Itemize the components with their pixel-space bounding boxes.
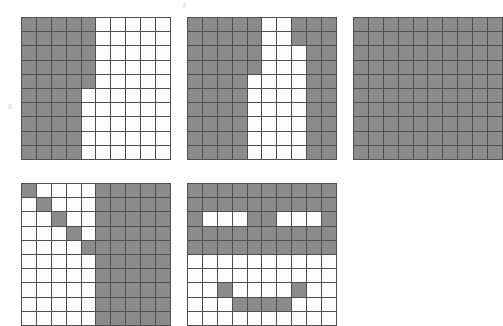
grid-cell[interactable] bbox=[398, 74, 413, 88]
grid-cell[interactable] bbox=[36, 60, 51, 74]
grid-cell[interactable] bbox=[202, 212, 217, 226]
grid-cell[interactable] bbox=[217, 117, 232, 131]
grid-cell[interactable] bbox=[247, 212, 262, 226]
grid-cell[interactable] bbox=[126, 131, 141, 145]
grid-cell[interactable] bbox=[322, 184, 337, 198]
grid-cell[interactable] bbox=[36, 145, 51, 159]
grid-cell[interactable] bbox=[81, 117, 96, 131]
grid-cell[interactable] bbox=[232, 297, 247, 311]
grid-cell[interactable] bbox=[156, 283, 171, 297]
grid-cell[interactable] bbox=[277, 212, 292, 226]
grid-cell[interactable] bbox=[51, 32, 66, 46]
grid-cell[interactable] bbox=[428, 32, 443, 46]
grid-cell[interactable] bbox=[473, 32, 488, 46]
grid-cell[interactable] bbox=[277, 131, 292, 145]
grid-cell[interactable] bbox=[307, 74, 322, 88]
grid-cell[interactable] bbox=[398, 18, 413, 32]
grid-cell[interactable] bbox=[368, 32, 383, 46]
grid-cell[interactable] bbox=[66, 32, 81, 46]
grid-cell[interactable] bbox=[428, 18, 443, 32]
grid-cell[interactable] bbox=[217, 60, 232, 74]
grid-cell[interactable] bbox=[262, 88, 277, 102]
grid-cell[interactable] bbox=[51, 117, 66, 131]
grid-cell[interactable] bbox=[81, 297, 96, 311]
grid-cell[interactable] bbox=[458, 145, 473, 159]
grid-cell[interactable] bbox=[262, 18, 277, 32]
grid-cell[interactable] bbox=[36, 32, 51, 46]
grid-cell[interactable] bbox=[66, 254, 81, 268]
grid-cell[interactable] bbox=[66, 117, 81, 131]
grid-cell[interactable] bbox=[458, 88, 473, 102]
grid-cell[interactable] bbox=[111, 74, 126, 88]
grid-cell[interactable] bbox=[322, 145, 337, 159]
grid-cell[interactable] bbox=[292, 198, 307, 212]
grid-cell[interactable] bbox=[126, 240, 141, 254]
grid-cell[interactable] bbox=[232, 254, 247, 268]
grid-cell[interactable] bbox=[111, 18, 126, 32]
grid-cell[interactable] bbox=[398, 131, 413, 145]
grid-cell[interactable] bbox=[66, 240, 81, 254]
grid-cell[interactable] bbox=[368, 60, 383, 74]
grid-cell[interactable] bbox=[96, 240, 111, 254]
grid-cell[interactable] bbox=[156, 18, 171, 32]
grid-cell[interactable] bbox=[354, 88, 369, 102]
grid-cell[interactable] bbox=[232, 212, 247, 226]
grid-cell[interactable] bbox=[473, 74, 488, 88]
grid-cell[interactable] bbox=[188, 226, 203, 240]
grid-cell[interactable] bbox=[66, 145, 81, 159]
grid-cell[interactable] bbox=[354, 131, 369, 145]
grid-cell[interactable] bbox=[307, 283, 322, 297]
grid-cell[interactable] bbox=[96, 145, 111, 159]
grid-cell[interactable] bbox=[156, 311, 171, 325]
grid-cell[interactable] bbox=[51, 297, 66, 311]
grid-cell[interactable] bbox=[217, 283, 232, 297]
grid-cell[interactable] bbox=[368, 88, 383, 102]
grid-cell[interactable] bbox=[111, 103, 126, 117]
grid-cell[interactable] bbox=[262, 117, 277, 131]
grid-cell[interactable] bbox=[458, 117, 473, 131]
grid-cell[interactable] bbox=[141, 297, 156, 311]
grid-cell[interactable] bbox=[66, 198, 81, 212]
grid-cell[interactable] bbox=[277, 74, 292, 88]
grid-cell[interactable] bbox=[81, 103, 96, 117]
grid-cell[interactable] bbox=[22, 269, 37, 283]
grid-cell[interactable] bbox=[188, 103, 203, 117]
grid-cell[interactable] bbox=[202, 117, 217, 131]
grid-cell[interactable] bbox=[247, 18, 262, 32]
grid-cell[interactable] bbox=[51, 254, 66, 268]
grid-cell[interactable] bbox=[156, 131, 171, 145]
grid-cell[interactable] bbox=[307, 103, 322, 117]
grid-cell[interactable] bbox=[322, 117, 337, 131]
grid-cell[interactable] bbox=[307, 184, 322, 198]
grid-cell[interactable] bbox=[277, 240, 292, 254]
grid-cell[interactable] bbox=[96, 18, 111, 32]
grid-cell[interactable] bbox=[156, 254, 171, 268]
grid-cell[interactable] bbox=[36, 18, 51, 32]
grid-cell[interactable] bbox=[277, 32, 292, 46]
grid-cell[interactable] bbox=[81, 184, 96, 198]
grid-cell[interactable] bbox=[232, 131, 247, 145]
grid-cell[interactable] bbox=[96, 32, 111, 46]
grid-cell[interactable] bbox=[141, 184, 156, 198]
grid-cell[interactable] bbox=[322, 74, 337, 88]
grid-cell[interactable] bbox=[292, 297, 307, 311]
grid-cell[interactable] bbox=[322, 283, 337, 297]
grid-cell[interactable] bbox=[217, 254, 232, 268]
grid-cell[interactable] bbox=[368, 74, 383, 88]
grid-cell[interactable] bbox=[96, 311, 111, 325]
grid-cell[interactable] bbox=[277, 103, 292, 117]
grid-cell[interactable] bbox=[322, 311, 337, 325]
grid-cell[interactable] bbox=[188, 198, 203, 212]
grid-cell[interactable] bbox=[247, 269, 262, 283]
grid-cell[interactable] bbox=[22, 226, 37, 240]
grid-cell[interactable] bbox=[368, 117, 383, 131]
grid-cell[interactable] bbox=[202, 60, 217, 74]
grid-cell[interactable] bbox=[262, 60, 277, 74]
grid-cell[interactable] bbox=[488, 103, 503, 117]
grid-cell[interactable] bbox=[383, 32, 398, 46]
grid-cell[interactable] bbox=[368, 145, 383, 159]
grid-cell[interactable] bbox=[473, 117, 488, 131]
grid-cell[interactable] bbox=[473, 88, 488, 102]
grid-cell[interactable] bbox=[202, 226, 217, 240]
grid-cell[interactable] bbox=[322, 269, 337, 283]
